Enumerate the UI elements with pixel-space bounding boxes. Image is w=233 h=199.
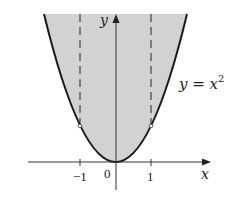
curve-label-text: y = x (178, 75, 219, 93)
tick-label-pos1: 1 (147, 169, 154, 184)
curve-label-exponent: 2 (218, 73, 224, 84)
x-axis-arrow-icon (202, 159, 211, 166)
y-axis-label: y (99, 12, 109, 28)
open-point-neg1 (78, 124, 82, 128)
tick-label-neg1: −1 (73, 169, 87, 184)
open-point-pos1 (149, 124, 153, 128)
curve-label: y = x2 (178, 73, 224, 93)
x-axis-label: x (201, 166, 209, 182)
parabola-diagram: −1 0 1 x y y = x2 (0, 0, 233, 199)
tick-label-0: 0 (104, 166, 111, 181)
